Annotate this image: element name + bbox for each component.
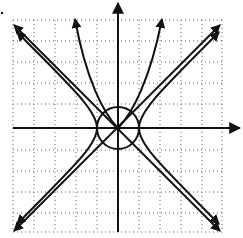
hyperbola-branch-upper-right	[139, 32, 219, 128]
origin-point	[116, 126, 121, 131]
corner-mark	[1, 12, 3, 14]
steep-curve-left	[75, 19, 118, 128]
coordinate-plane	[0, 0, 243, 238]
hyperbola-branch-lower-left	[17, 128, 97, 224]
diagram-canvas	[0, 0, 243, 238]
hyperbola-branch-lower-right	[139, 128, 219, 224]
steep-curve-right	[118, 19, 162, 128]
hyperbola-branch-upper-left	[17, 32, 97, 128]
